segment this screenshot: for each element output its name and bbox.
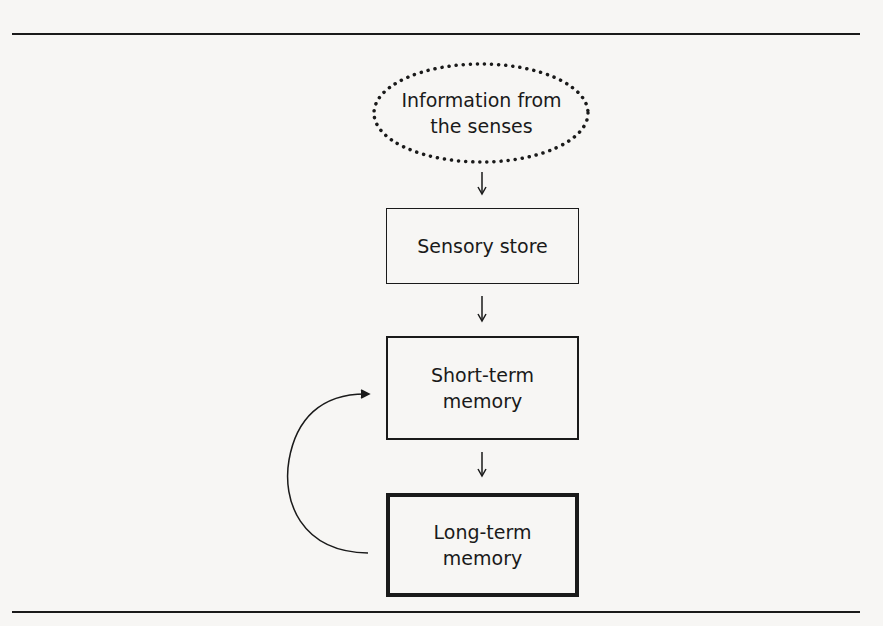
node-short-term-memory: Short-term memory <box>386 336 579 440</box>
arrow-ltm-to-stm <box>288 394 368 553</box>
senses-label-line1: Information from <box>401 87 561 113</box>
stm-label-line1: Short-term <box>431 362 534 388</box>
sensory-store-label: Sensory store <box>417 233 547 259</box>
ltm-label-line2: memory <box>434 545 532 571</box>
node-sensory-store: Sensory store <box>386 208 579 284</box>
node-senses: Information from the senses <box>380 75 583 151</box>
node-long-term-memory: Long-term memory <box>386 493 579 597</box>
ltm-label-line1: Long-term <box>434 519 532 545</box>
stm-label-line2: memory <box>431 388 534 414</box>
senses-label-line2: the senses <box>401 113 561 139</box>
